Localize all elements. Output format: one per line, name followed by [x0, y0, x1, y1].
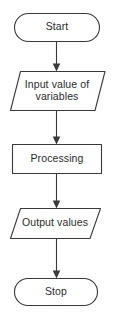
node-output-shape[interactable] — [11, 209, 101, 239]
node-input-shape[interactable] — [11, 72, 106, 111]
connector-start-to-input-arrowhead — [53, 64, 61, 72]
connector-processing-to-output-arrowhead — [53, 201, 61, 209]
node-processing-shape[interactable] — [13, 145, 102, 174]
node-start-shape[interactable] — [15, 14, 100, 42]
connector-input-to-processing-arrowhead — [53, 137, 61, 145]
node-stop-shape[interactable] — [15, 279, 98, 306]
flowchart-diagram — [0, 0, 114, 318]
connector-output-to-stop-arrowhead — [53, 271, 61, 279]
